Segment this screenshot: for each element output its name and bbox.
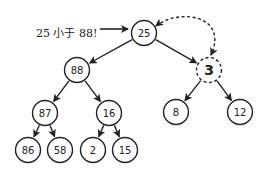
node-label: 12 — [234, 107, 247, 118]
edge-25-to-88 — [90, 40, 132, 63]
node-label: 3 — [204, 62, 214, 78]
edges-layer — [34, 40, 231, 137]
node-label: 86 — [22, 145, 35, 156]
node-58: 58 — [48, 138, 73, 163]
node-3: 3 — [197, 58, 222, 83]
node-label: 8 — [173, 107, 179, 118]
edge-3-to-8 — [185, 81, 201, 101]
node-88: 88 — [65, 58, 90, 83]
edge-25-to-3 — [156, 40, 197, 63]
annotation-layer: 25 小于 88! — [36, 27, 128, 40]
node-15: 15 — [113, 138, 138, 163]
node-2: 2 — [81, 138, 106, 163]
node-25: 25 — [132, 21, 157, 46]
annotation-text: 25 小于 88! — [36, 27, 97, 40]
heap-diagram: 25 小于 88! 2588387168128658215 — [0, 0, 266, 190]
node-label: 87 — [39, 108, 52, 119]
edge-16-to-2 — [99, 125, 104, 136]
node-label: 15 — [119, 145, 132, 156]
nodes-layer: 2588387168128658215 — [16, 21, 253, 163]
node-12: 12 — [228, 100, 253, 125]
node-86: 86 — [16, 138, 41, 163]
node-87: 87 — [33, 101, 58, 126]
edge-88-to-87 — [54, 81, 69, 102]
node-8: 8 — [164, 100, 189, 125]
swap-arrow-path — [156, 17, 215, 55]
edge-87-to-86 — [34, 125, 39, 137]
node-label: 25 — [138, 28, 151, 39]
edge-16-to-15 — [114, 125, 119, 136]
edge-88-to-16 — [85, 81, 100, 102]
node-label: 88 — [71, 65, 84, 76]
edge-3-to-12 — [217, 81, 231, 100]
node-16: 16 — [97, 101, 122, 126]
node-label: 58 — [54, 145, 67, 156]
edge-87-to-58 — [50, 126, 54, 137]
node-label: 16 — [103, 108, 116, 119]
swap-arrow — [156, 17, 215, 55]
node-label: 2 — [90, 145, 96, 156]
